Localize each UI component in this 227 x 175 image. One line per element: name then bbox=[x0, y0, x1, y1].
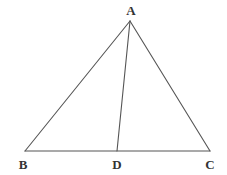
geometry-figure: A B D C bbox=[0, 0, 227, 175]
segment-AC bbox=[130, 21, 210, 151]
vertex-label-d: D bbox=[112, 158, 121, 171]
segment-AB bbox=[25, 21, 130, 151]
vertex-label-c: C bbox=[205, 158, 214, 171]
vertex-label-b: B bbox=[19, 158, 28, 171]
segment-AD bbox=[117, 21, 130, 151]
triangle-diagram-svg bbox=[0, 0, 227, 175]
vertex-label-a: A bbox=[126, 4, 135, 17]
